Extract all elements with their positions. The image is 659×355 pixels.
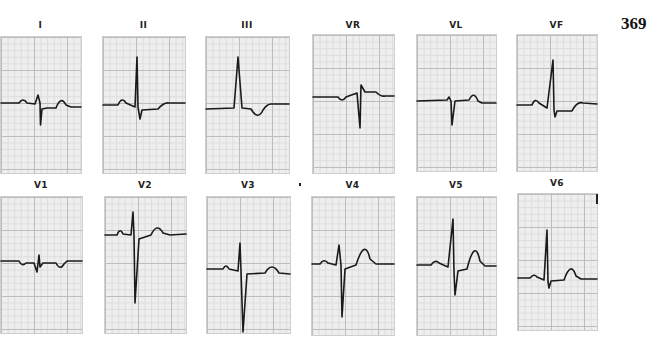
lead-vf: VF: [516, 16, 597, 176]
ecg-trace: [417, 197, 496, 335]
ecg-trace: [1, 197, 82, 333]
lead-label: V4: [311, 180, 394, 190]
calibration-mark: [596, 194, 598, 204]
ecg-trace: [105, 197, 186, 333]
ecg-trace: [206, 37, 289, 173]
ecg-strip: [312, 34, 395, 174]
ecg-strip: [416, 34, 497, 172]
ecg-strip: [517, 193, 598, 331]
ecg-trace: [103, 37, 185, 173]
ecg-trace: [313, 35, 394, 173]
lead-iii: III: [205, 16, 289, 176]
lead-label: III: [205, 20, 289, 30]
ecg-strip: [102, 36, 186, 174]
ecg-trace: [312, 197, 394, 335]
lead-v2: V2: [104, 176, 186, 336]
lead-vl: VL: [416, 16, 496, 176]
page-number: 369: [621, 14, 647, 34]
ecg-strip: [205, 36, 290, 174]
ecg-strip: [311, 196, 395, 336]
lead-v5: V5: [416, 176, 496, 336]
ecg-trace: [417, 35, 496, 171]
lead-i: I: [0, 16, 81, 176]
lead-v1: V1: [0, 176, 82, 336]
lead-label: VL: [416, 20, 496, 30]
ecg-trace: [518, 194, 597, 330]
ecg-strip: [0, 36, 82, 174]
lead-label: V2: [104, 180, 186, 190]
lead-label: V5: [416, 180, 496, 190]
ecg-strip: [0, 196, 83, 334]
ecg-trace: [517, 35, 597, 171]
lead-v3: V3: [206, 176, 290, 336]
lead-label: VF: [516, 20, 597, 30]
dot-mark: [299, 183, 301, 186]
lead-vr: VR: [312, 16, 394, 176]
lead-label: II: [102, 20, 185, 30]
lead-label: V6: [517, 178, 597, 188]
ecg-strip: [206, 196, 291, 334]
ecg-strip: [104, 196, 187, 334]
lead-label: V3: [206, 180, 290, 190]
lead-label: V1: [0, 180, 82, 190]
lead-v6: V6: [517, 176, 597, 336]
ecg-strip: [416, 196, 497, 336]
lead-label: I: [0, 20, 81, 30]
ecg-trace: [207, 197, 290, 333]
ecg-strip: [516, 34, 598, 172]
lead-v4: V4: [311, 176, 394, 336]
lead-ii: II: [102, 16, 185, 176]
ecg-trace: [1, 37, 81, 173]
lead-label: VR: [312, 20, 394, 30]
